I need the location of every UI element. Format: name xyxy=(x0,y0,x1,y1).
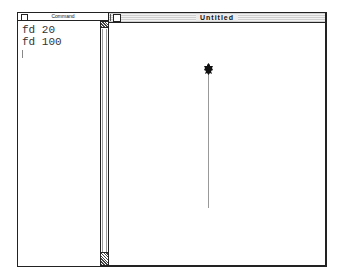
scroll-track[interactable] xyxy=(102,29,107,258)
graphics-titlebar[interactable]: Untitled xyxy=(109,13,325,23)
scroll-up-icon[interactable] xyxy=(101,21,108,28)
command-input[interactable]: fd 20fd 100 xyxy=(22,24,62,48)
scroll-down-icon[interactable] xyxy=(101,252,108,266)
text-caret xyxy=(22,50,23,58)
command-line: fd 20 xyxy=(22,24,62,36)
command-titlebar[interactable]: Command xyxy=(18,13,108,21)
vertical-scrollbar[interactable] xyxy=(100,21,108,266)
command-line: fd 100 xyxy=(22,36,62,48)
turtle-trail xyxy=(208,73,209,208)
graphics-window: Untitled xyxy=(108,12,327,267)
turtle-icon xyxy=(202,63,215,76)
turtle-canvas[interactable] xyxy=(109,23,325,265)
graphics-window-title: Untitled xyxy=(109,13,325,22)
command-window: Command fd 20fd 100 xyxy=(17,12,109,267)
command-window-title: Command xyxy=(18,13,108,20)
